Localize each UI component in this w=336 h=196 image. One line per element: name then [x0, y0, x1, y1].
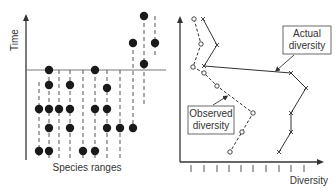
diversity-axis-arrow-icon	[317, 159, 324, 165]
fossil-occurrence-dot	[45, 124, 53, 132]
actual-diversity-label-line1: Actual	[293, 28, 321, 39]
observed-diversity-pointer-arrow	[213, 97, 226, 105]
fossil-occurrence-dot	[45, 66, 53, 74]
observed-diversity-label-line2: diversity	[193, 120, 230, 131]
time-axis-label: Time	[9, 29, 20, 51]
diversity-panel: Actual diversity Observed diversity Dive…	[177, 16, 331, 186]
fossil-occurrence-dot	[103, 105, 111, 113]
fossil-occurrence-dot	[91, 66, 99, 74]
fossil-occurrence-dot	[103, 124, 111, 132]
actual-diversity-label-line2: diversity	[289, 40, 326, 51]
fossil-occurrence-dot	[66, 124, 74, 132]
observed-point-circle-icon	[199, 42, 203, 46]
actual-point-x-icon	[304, 86, 308, 90]
fossil-occurrence-dot	[35, 105, 43, 113]
observed-point-circle-icon	[192, 17, 196, 21]
species-ranges-panel: Time Species ranges	[9, 12, 166, 173]
fossil-occurrence-dot	[35, 147, 43, 155]
actual-point-x-icon	[277, 150, 281, 154]
observed-point-circle-icon	[240, 130, 244, 134]
time-axis-right-arrow-icon	[177, 16, 183, 23]
fossil-occurrence-dot	[116, 124, 124, 132]
observed-point-circle-icon	[215, 84, 219, 88]
fossil-occurrence-dot	[151, 39, 159, 47]
fossil-occurrence-dot	[79, 147, 87, 155]
fossil-occurrence-dot	[45, 147, 53, 155]
observed-diversity-label-line1: Observed	[189, 108, 232, 119]
fossil-occurrence-dot	[45, 105, 53, 113]
fossil-occurrence-dot	[140, 12, 148, 20]
diversity-axis-label: Diversity	[290, 175, 328, 186]
observed-point-circle-icon	[191, 65, 195, 69]
fossil-occurrence-dot	[66, 105, 74, 113]
fossil-occurrence-dot	[66, 81, 74, 89]
fossil-occurrence-dot	[129, 39, 137, 47]
fossil-occurrence-dot	[91, 147, 99, 155]
fossil-occurrence-dot	[55, 105, 63, 113]
species-ranges-label: Species ranges	[53, 162, 122, 173]
observed-point-circle-icon	[251, 111, 255, 115]
observed-point-circle-icon	[228, 150, 232, 154]
observed-point-circle-icon	[202, 71, 206, 75]
fossil-occurrence-dot	[140, 60, 148, 68]
diversity-diagram: Time Species ranges Actual diversity Obs…	[0, 0, 336, 196]
actual-point-x-icon	[201, 17, 205, 21]
time-axis-arrow-icon	[23, 14, 29, 21]
fossil-occurrence-dot	[103, 84, 111, 92]
fossil-occurrence-dot	[45, 81, 53, 89]
fossil-occurrence-dot	[91, 105, 99, 113]
actual-point-x-icon	[215, 43, 219, 47]
actual-diversity-pointer-arrow	[277, 55, 294, 70]
fossil-occurrence-dot	[129, 124, 137, 132]
